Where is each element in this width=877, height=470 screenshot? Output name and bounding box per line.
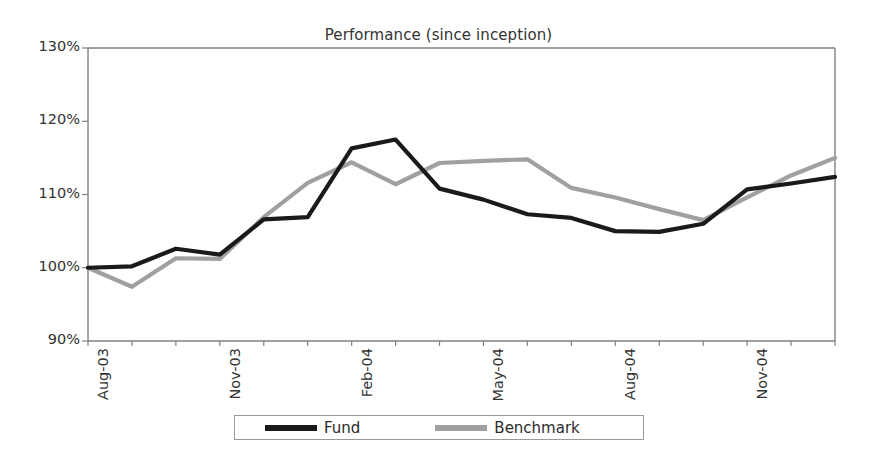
chart-legend: Fund Benchmark bbox=[234, 415, 644, 440]
x-axis-tick-label: Aug-04 bbox=[622, 348, 638, 400]
x-axis-tick-label: Nov-03 bbox=[227, 348, 243, 400]
x-axis-tick-label: Feb-04 bbox=[359, 348, 375, 397]
legend-item-benchmark: Benchmark bbox=[435, 419, 579, 437]
x-axis-tick-label: Nov-04 bbox=[754, 348, 770, 400]
x-axis-tick-label: May-04 bbox=[490, 348, 506, 401]
performance-chart: Performance (since inception) 130%120%11… bbox=[0, 0, 877, 470]
x-axis-tick-label: Aug-03 bbox=[95, 348, 111, 400]
x-axis-labels: Aug-03Nov-03Feb-04May-04Aug-04Nov-04 bbox=[0, 0, 877, 470]
legend-label-benchmark: Benchmark bbox=[494, 419, 579, 437]
legend-item-fund: Fund bbox=[265, 419, 360, 437]
legend-swatch-benchmark bbox=[435, 425, 487, 431]
legend-swatch-fund bbox=[265, 425, 317, 431]
legend-label-fund: Fund bbox=[324, 419, 360, 437]
